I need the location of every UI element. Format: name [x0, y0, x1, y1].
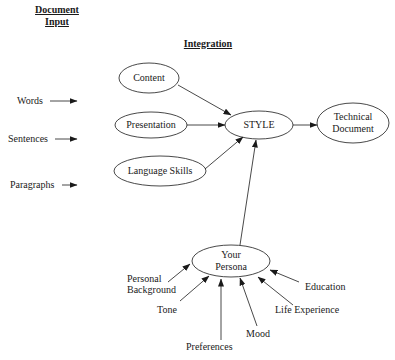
document-input-header-line2: Input: [32, 16, 82, 28]
factor-personal-background: Personal Background: [127, 273, 176, 295]
tone-arrow: [180, 276, 209, 301]
technical-document-line1: Technical: [334, 111, 373, 123]
style-label: STYLE: [225, 117, 293, 133]
factor-tone: Tone: [157, 304, 177, 315]
your-persona-label: Your Persona: [192, 248, 270, 274]
factor-life-experience: Life Experience: [275, 304, 339, 315]
mood-arrow: [240, 278, 257, 326]
document-input-header-line1: Document: [32, 4, 82, 16]
factor-education: Education: [305, 281, 346, 292]
personal-background-line1: Personal: [127, 273, 176, 284]
your-persona-line1: Your: [221, 249, 241, 261]
technical-document-label: Technical Document: [317, 109, 389, 137]
personal-background-line2: Background: [127, 284, 176, 295]
technical-document-line2: Document: [332, 123, 374, 135]
content-label: Content: [119, 70, 179, 86]
your-persona-line2: Persona: [215, 261, 247, 273]
content-to-style-arrow: [178, 85, 231, 115]
persona-to-style-arrow: [240, 140, 256, 245]
input-words: Words: [17, 95, 43, 106]
input-paragraphs: Paragraphs: [10, 179, 54, 190]
language-skills-to-style-arrow: [205, 137, 243, 169]
integration-header: Integration: [180, 38, 236, 50]
education-arrow: [270, 270, 299, 282]
presentation-label: Presentation: [115, 117, 187, 133]
input-sentences: Sentences: [8, 133, 48, 144]
document-input-header: Document Input: [32, 4, 82, 28]
factor-preferences: Preferences: [186, 341, 233, 352]
factor-mood: Mood: [246, 328, 270, 339]
language-skills-label: Language Skills: [114, 163, 206, 179]
life-experience-arrow: [258, 277, 293, 305]
